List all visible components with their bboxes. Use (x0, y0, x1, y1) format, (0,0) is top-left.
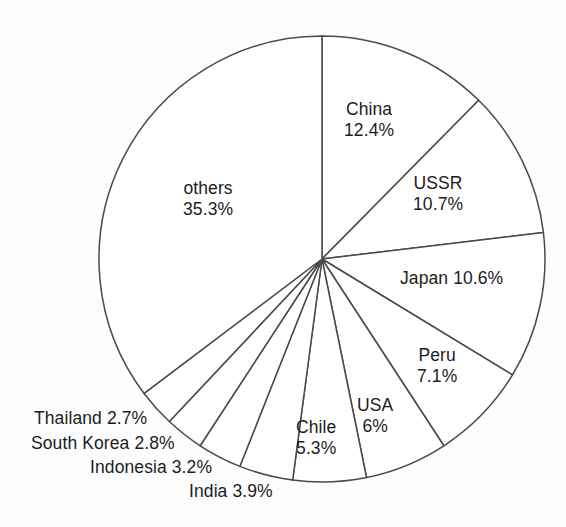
slice-label-value: 10.7% (413, 194, 463, 215)
pie-chart-figure: China12.4%USSR10.7%Japan 10.6%Peru7.1%US… (0, 0, 566, 527)
slice-label-value: 5.3% (296, 438, 336, 459)
slice-label-name: Indonesia (90, 457, 167, 477)
slice-label-peru: Peru7.1% (417, 345, 457, 387)
slice-label-value: 2.8% (134, 433, 174, 453)
slice-label-name: Thailand (34, 408, 102, 428)
slice-label-value: 35.3% (183, 199, 233, 220)
slice-label-name: Peru (417, 345, 457, 366)
slice-label-indonesia: Indonesia 3.2% (90, 457, 212, 478)
slice-label-south-korea: South Korea 2.8% (31, 433, 175, 454)
slice-label-ussr: USSR10.7% (413, 173, 463, 215)
slice-label-name: USA (357, 395, 393, 416)
slice-label-thailand: Thailand 2.7% (34, 408, 147, 429)
slice-label-value: 3.9% (232, 481, 272, 501)
slice-label-usa: USA6% (357, 395, 393, 437)
slice-label-chile: Chile5.3% (296, 417, 336, 459)
slice-label-name: China (344, 99, 394, 120)
slice-label-name: India (189, 481, 227, 501)
slice-label-others: others35.3% (183, 178, 233, 220)
slice-label-name: South Korea (31, 433, 129, 453)
slice-label-value: 3.2% (172, 457, 212, 477)
slice-label-name: USSR (413, 173, 463, 194)
slice-label-india: India 3.9% (189, 481, 273, 502)
slice-label-japan: Japan 10.6% (400, 268, 503, 289)
slice-label-value: 10.6% (453, 268, 503, 288)
slice-label-name: Chile (296, 417, 336, 438)
slice-label-value: 12.4% (344, 120, 394, 141)
slice-label-value: 6% (357, 416, 393, 437)
slice-label-value: 2.7% (107, 408, 147, 428)
slice-label-name: Japan (400, 268, 448, 288)
slice-label-value: 7.1% (417, 366, 457, 387)
slice-label-china: China12.4% (344, 99, 394, 141)
slice-label-name: others (183, 178, 233, 199)
